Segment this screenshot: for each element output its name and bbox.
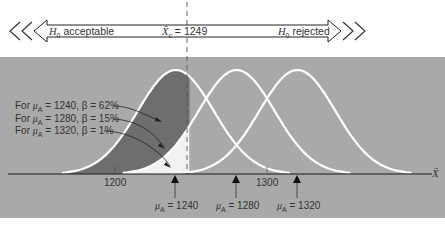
annotation-text: = 1320, β = 1% [42, 125, 113, 136]
h0-acceptable-label: H0 acceptable [49, 25, 114, 42]
annotation-prefix: For [15, 113, 33, 124]
tick-label-1300: 1300 [256, 177, 278, 189]
critical-value-text: = 1249 [172, 25, 207, 37]
h-symbol: H [278, 26, 286, 37]
annotation-1320: For μA = 1320, β = 1% [15, 125, 113, 141]
chevron-left-inner-icon [22, 22, 32, 40]
h-symbol: H [49, 26, 57, 37]
marker-label-1240: μA = 1240 [155, 200, 198, 216]
marker-label-1280: μA = 1280 [216, 200, 259, 216]
chevron-right-inner-icon [343, 22, 353, 40]
h0-acceptable-text: acceptable [61, 25, 115, 37]
chevron-left-outer-icon [10, 22, 20, 40]
h0-rejected-text: rejected [290, 25, 330, 37]
tick-label-1200: 1200 [104, 177, 126, 189]
marker-text: = 1320 [287, 200, 321, 211]
marker-text: = 1240 [165, 200, 199, 211]
marker-text: = 1280 [226, 200, 260, 211]
critical-value-label: X̄c = 1249 [162, 25, 207, 42]
marker-label-1320: μA = 1320 [277, 200, 320, 216]
h0-rejected-label: H0 rejected [278, 25, 330, 42]
annotation-prefix: For [15, 125, 33, 136]
annotation-text: = 1240, β = 62% [42, 100, 118, 111]
annotation-text: = 1280, β = 15% [42, 113, 118, 124]
annotation-prefix: For [15, 100, 33, 111]
x-axis-label: X̄ [432, 167, 439, 179]
chevron-right-outer-icon [355, 22, 365, 40]
